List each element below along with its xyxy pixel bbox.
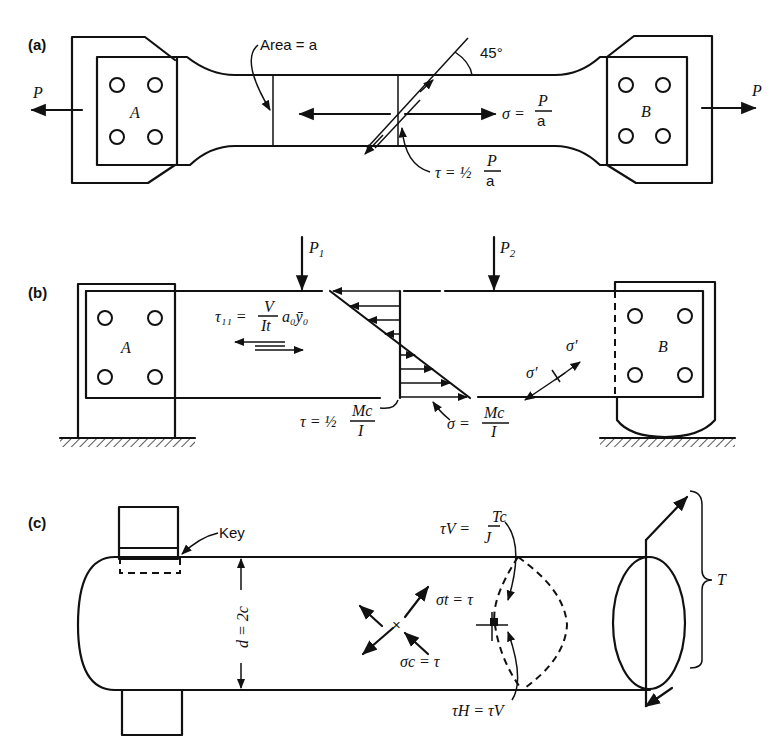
base-shear-lhs: τ = ½ (300, 413, 337, 430)
key-label: Key (219, 524, 245, 541)
shear-stress-num: P (486, 152, 497, 169)
bolt-hole (628, 368, 642, 382)
panel-a-tension-specimen: (a) A B P P (28, 36, 762, 189)
shear-leader (380, 400, 398, 408)
compression-arrow (405, 633, 428, 654)
stress-diagram: (a) A B P P (0, 0, 777, 752)
hub-top-hatched (119, 507, 178, 548)
grip-a-label: A (129, 104, 140, 121)
bending-stress-num: Mc (483, 404, 504, 421)
torque-arrow-up (646, 497, 687, 540)
shear-arrow (420, 80, 433, 92)
bolt-hole (656, 78, 670, 92)
bolt-hole (656, 129, 670, 143)
grip-b-label: B (641, 103, 651, 120)
load-p-right: P (751, 82, 762, 99)
bolt-hole (110, 78, 124, 92)
section-dashed-back (518, 557, 567, 690)
load-p1: P1 (308, 239, 324, 259)
panel-a-label: (a) (28, 36, 46, 53)
area-leader (251, 45, 270, 110)
tension-arrow (405, 587, 428, 617)
bolt-hole (98, 311, 112, 325)
grip-left-outer (72, 37, 175, 183)
principal-arrow (555, 362, 580, 380)
horizontal-shear-lhs: τ₁₁ = (215, 308, 247, 325)
shaft-end-face (613, 557, 685, 689)
shaft-outline (78, 557, 650, 690)
principal-label-top: σ′ (566, 337, 578, 354)
horizontal-shear-den: It (260, 317, 271, 334)
angle-label: 45° (480, 44, 503, 61)
bending-stress-den: I (490, 423, 497, 440)
bolt-hole (110, 130, 124, 144)
panel-c-torsion-shaft: (c) Key d = 2c × σt = τ σc = τ τV = Tc (28, 491, 727, 735)
compression-label: σc = τ (400, 653, 441, 670)
tau-v-lhs: τV = (440, 520, 470, 537)
support-a-label: A (120, 339, 131, 356)
shear-stress-lhs: τ = ½ (435, 164, 472, 181)
specimen-top-edge (177, 57, 610, 75)
bolt-hole (678, 368, 692, 382)
base-shear-den: I (357, 422, 364, 439)
principal-label-left: σ′ (526, 364, 538, 381)
shear-arrow (365, 135, 383, 154)
tau-h-label: τH = τV (452, 702, 506, 719)
inclined-plane-line (367, 38, 468, 148)
horizontal-shear-num: V (264, 298, 276, 315)
normal-stress-lhs: σ = (502, 105, 525, 122)
normal-stress-den: a (537, 112, 546, 129)
bolt-hole (148, 311, 162, 325)
diameter-label: d = 2c (234, 606, 251, 648)
tau-v-num: Tc (492, 508, 507, 525)
key-seat-dashed (120, 558, 180, 573)
ground-hatch-left (60, 439, 195, 447)
element-cross: × (392, 616, 401, 633)
bolt-hole (628, 309, 642, 323)
compression-arrow (360, 606, 382, 626)
shear-leader (402, 128, 430, 172)
torque-brace (690, 491, 712, 668)
support-left-frame (78, 284, 175, 437)
ground-hatch-right (600, 439, 735, 447)
tension-label: σt = τ (436, 591, 474, 608)
shear-stress-den: a (486, 172, 495, 189)
bolt-hole (148, 130, 162, 144)
panel-b-bending-specimen: (b) A B (28, 237, 735, 447)
support-b-label: B (658, 338, 668, 355)
specimen-bottom-edge (177, 146, 610, 165)
panel-b-label: (b) (28, 284, 47, 301)
tension-arrow (363, 628, 393, 654)
panel-c-label: (c) (28, 514, 46, 531)
bolt-hole (678, 309, 692, 323)
horizontal-shear-tail: a₀ȳ₀ (282, 308, 308, 326)
load-p2: P2 (499, 239, 516, 259)
area-label: Area = a (260, 36, 318, 53)
bolt-hole (619, 78, 633, 92)
support-right-frame (615, 282, 715, 437)
bolt-hole (98, 370, 112, 384)
angle-arc (455, 52, 472, 75)
normal-stress-num: P (537, 92, 548, 109)
bolt-hole (619, 129, 633, 143)
bolt-hole (148, 78, 162, 92)
bending-stress-lhs: σ = (447, 415, 470, 432)
bolt-hole (148, 370, 162, 384)
base-shear-num: Mc (351, 402, 372, 419)
tau-v-den: J (484, 529, 492, 546)
hub-bottom-hatched (122, 690, 182, 735)
tau-v-leader (505, 522, 516, 600)
load-p-left: P (32, 84, 43, 101)
torque-label: T (717, 571, 727, 588)
key-leader (182, 533, 218, 554)
